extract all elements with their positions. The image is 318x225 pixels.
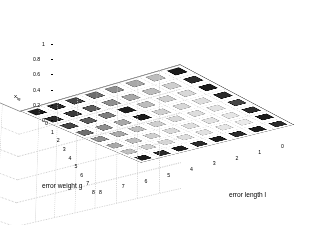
z-tickmark: [51, 44, 53, 45]
z-axis-label: xlg: [14, 92, 21, 101]
x-tick-3: 3: [213, 160, 216, 166]
x-tick-8: 8: [99, 189, 102, 195]
back-wall-left: [15, 64, 181, 225]
y-tick-8: 8: [92, 189, 95, 195]
wall-gridline-z: [19, 88, 180, 134]
z-tick-1: 1: [42, 41, 45, 47]
wall-gridline-axis: [159, 70, 160, 193]
y-tick-6: 6: [80, 172, 83, 178]
wall-gridline-axis: [0, 104, 3, 221]
x-tick-7: 7: [122, 183, 125, 189]
x-tick-5: 5: [167, 172, 170, 178]
x-tick-4: 4: [190, 166, 193, 172]
wall-gridline-axis: [54, 100, 58, 217]
wall-gridline-axis: [116, 82, 118, 203]
y-tick-0: 0: [45, 120, 48, 126]
x-axis-label: error length l: [229, 191, 266, 198]
y-tick-4: 4: [69, 155, 72, 161]
wall-gridline-axis: [137, 76, 139, 198]
z-tick-0.2: 0.2: [33, 102, 40, 108]
wall-gridline-z: [17, 137, 180, 180]
y-tick-1: 1: [51, 129, 54, 135]
y-tick-3: 3: [63, 146, 66, 152]
wall-gridline-axis: [35, 105, 40, 221]
z-axis-label-subscript: lg: [17, 96, 20, 101]
plot-3d-scene: [0, 0, 318, 225]
z-tick-0.6: 0.6: [33, 71, 40, 77]
z-tickmark: [51, 105, 53, 106]
z-tickmark: [51, 74, 53, 75]
x-tick-0: 0: [281, 143, 284, 149]
figure-canvas: 10.80.60.40.20 012345678 876543210 xlg e…: [0, 0, 318, 225]
wall-border-top: [0, 47, 20, 112]
y-tick-5: 5: [74, 163, 77, 169]
z-tick-0.4: 0.4: [33, 87, 40, 93]
x-tick-1: 1: [258, 149, 261, 155]
z-tickmark: [51, 59, 53, 60]
wall-border-top: [20, 64, 180, 112]
wall-gridline-axis: [95, 88, 98, 208]
y-tick-2: 2: [57, 137, 60, 143]
x-tick-2: 2: [236, 155, 239, 161]
z-tickmark: [51, 120, 53, 121]
floor-edge-east: [179, 64, 294, 125]
y-tick-7: 7: [86, 180, 89, 186]
wall-gridline-axis: [74, 94, 78, 212]
y-axis-label: error weight g: [42, 182, 82, 189]
z-tickmark: [51, 90, 53, 91]
x-tick-6: 6: [145, 178, 148, 184]
z-tick-0.8: 0.8: [33, 56, 40, 62]
wall-gridline-z: [16, 163, 181, 204]
